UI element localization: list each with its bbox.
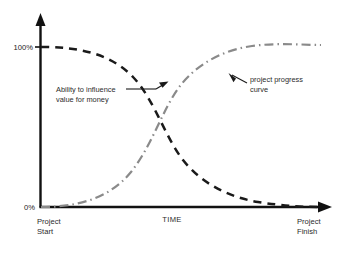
influence-annotation-line2: value for money bbox=[56, 95, 109, 104]
series-project-progress-curve bbox=[41, 44, 321, 207]
chart-canvas: 100% 0% TIME Project Start Project Finis… bbox=[0, 0, 341, 254]
x-axis-end-label-line1: Project bbox=[297, 217, 322, 226]
x-axis-end-label-line2: Finish bbox=[297, 227, 317, 236]
y-axis-arrowhead bbox=[36, 13, 46, 26]
x-axis-arrowhead bbox=[318, 202, 332, 213]
progress-leader-arrowhead bbox=[229, 73, 237, 82]
series-ability-to-influence-curve bbox=[41, 47, 319, 207]
x-axis-center-label: TIME bbox=[162, 215, 181, 224]
influence-annotation-line1: Ability to influence bbox=[56, 85, 116, 94]
progress-annotation-line1: project progress bbox=[250, 75, 303, 84]
x-axis-start-label-line1: Project bbox=[37, 217, 62, 226]
y-axis-top-label: 100% bbox=[14, 43, 34, 52]
progress-annotation-line2: curve bbox=[250, 85, 268, 94]
x-axis-start-label-line2: Start bbox=[37, 227, 54, 236]
y-axis-bottom-label: 0% bbox=[24, 203, 35, 212]
project-influence-chart: 100% 0% TIME Project Start Project Finis… bbox=[0, 0, 341, 254]
